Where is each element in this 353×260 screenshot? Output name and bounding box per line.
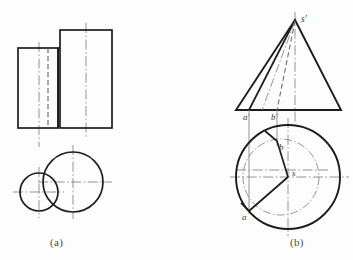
caption-b: (b) — [290, 236, 304, 248]
cone-generatrix-thin-line — [262, 21, 295, 110]
cone-generatrix-a-prime — [249, 20, 295, 110]
caption-a: (a) — [50, 236, 63, 248]
edge-a-to-circle — [241, 203, 249, 211]
label-a: a — [242, 212, 247, 222]
edge-b-to-circle — [265, 131, 277, 141]
engineering-drawing-figure: s′ a′ b′ s a b — [0, 0, 353, 260]
front-view-small-rectangle — [18, 48, 58, 128]
label-s: s — [292, 168, 296, 178]
part-b-group: s′ a′ b′ s a b — [230, 12, 349, 236]
part-a-group — [13, 23, 112, 219]
part-b-top-centerlines — [230, 118, 349, 236]
label-b: b — [279, 142, 284, 152]
label-s-prime: s′ — [301, 14, 308, 24]
radial-line-s-a — [249, 177, 288, 211]
